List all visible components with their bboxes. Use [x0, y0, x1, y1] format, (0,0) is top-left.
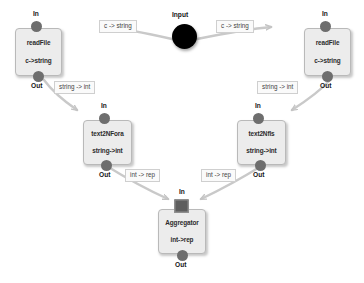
- node-readfile-left-type: c->string: [25, 58, 51, 64]
- node-readfile-right-name: readFile: [316, 40, 340, 46]
- node-readfile-left[interactable]: readFile c->string: [15, 28, 62, 76]
- edge-label-input-readfile-left[interactable]: c -> string: [99, 20, 137, 33]
- readfile-left-in-label: In: [33, 11, 39, 18]
- text2nfora-out-port[interactable]: [101, 160, 112, 171]
- aggregator-in-label: In: [179, 189, 185, 196]
- node-text2nfora-name: text2NFora: [91, 131, 123, 137]
- aggregator-in-port[interactable]: [174, 199, 189, 213]
- text2nfora-out-label: Out: [99, 172, 110, 179]
- edge-label-text2nfls-aggregator[interactable]: int -> rep: [201, 169, 236, 182]
- node-aggregator-type: int->rep: [171, 237, 194, 243]
- input-node[interactable]: [172, 24, 197, 49]
- node-text2nfls-type: string->int: [246, 148, 276, 154]
- text2nfora-in-label: In: [101, 103, 107, 110]
- edge-label-text2nfora-aggregator[interactable]: int -> rep: [125, 169, 160, 182]
- edge-label-readfileleft-text2nfora[interactable]: string -> int: [54, 81, 95, 94]
- readfile-right-in-label: In: [322, 11, 328, 18]
- readfile-right-out-label: Out: [320, 83, 331, 90]
- diagram-canvas[interactable]: Input In readFile c->string Out In readF…: [0, 0, 364, 283]
- text2nfls-in-label: In: [255, 103, 261, 110]
- node-text2nfora[interactable]: text2NFora string->int: [83, 120, 132, 165]
- text2nfls-out-label: Out: [253, 172, 264, 179]
- node-aggregator[interactable]: Aggregator int->rep: [158, 209, 206, 254]
- readfile-left-out-port[interactable]: [33, 71, 44, 82]
- edge-label-readfileright-text2nfls[interactable]: string -> int: [257, 81, 298, 94]
- node-text2nfora-type: string->int: [92, 148, 122, 154]
- node-text2nfls[interactable]: text2Nfls string->int: [237, 120, 286, 165]
- aggregator-out-label: Out: [175, 262, 186, 269]
- node-readfile-right-type: c->string: [314, 58, 340, 64]
- readfile-right-in-port[interactable]: [320, 21, 331, 32]
- input-label: Input: [172, 12, 188, 19]
- readfile-right-out-port[interactable]: [322, 71, 333, 82]
- aggregator-out-port[interactable]: [177, 250, 188, 261]
- node-aggregator-name: Aggregator: [165, 220, 198, 226]
- node-readfile-left-name: readFile: [27, 40, 51, 46]
- readfile-left-out-label: Out: [31, 83, 42, 90]
- text2nfls-out-port[interactable]: [255, 160, 266, 171]
- node-readfile-right[interactable]: readFile c->string: [304, 28, 351, 76]
- edge-label-input-readfile-right[interactable]: c -> string: [216, 20, 254, 33]
- readfile-left-in-port[interactable]: [31, 21, 42, 32]
- node-text2nfls-name: text2Nfls: [248, 131, 274, 137]
- text2nfls-in-port[interactable]: [253, 113, 264, 124]
- text2nfora-in-port[interactable]: [99, 113, 110, 124]
